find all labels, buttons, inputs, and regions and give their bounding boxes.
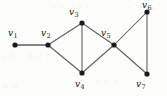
vertex-label-v3: v3 (69, 8, 78, 17)
graph-edge-v5-v7 (114, 45, 147, 74)
vertex-label-v4: v4 (75, 80, 84, 89)
vertex-label-subscript-v5: 5 (106, 32, 110, 40)
graph-edge-v5-v6 (114, 12, 147, 45)
graph-edge-v2-v4 (48, 45, 82, 73)
vertex-label-subscript-v1: 1 (13, 32, 17, 40)
vertex-label-subscript-v2: 2 (46, 32, 50, 40)
graph-vertex-v7 (144, 71, 149, 76)
vertex-label-v1: v1 (8, 29, 17, 38)
graph-vertex-v1 (12, 42, 17, 47)
vertex-label-v5: v5 (101, 29, 110, 38)
graph-vertex-v3 (79, 20, 84, 25)
vertex-label-v6: v6 (142, 1, 151, 10)
vertex-label-subscript-v3: 3 (74, 11, 78, 19)
graph-edge-v4-v5 (82, 45, 114, 73)
graph-edge-v2-v3 (48, 23, 82, 45)
graph-vertex-v2 (45, 42, 50, 47)
vertex-layer (12, 9, 149, 76)
vertex-label-v7: v7 (136, 80, 145, 89)
vertex-label-subscript-v4: 4 (80, 83, 84, 91)
graph-figure: v v v v v a b c d e f g x y z m n v1v2v3… (0, 0, 167, 96)
graph-vertex-v4 (79, 70, 84, 75)
vertex-label-v2: v2 (41, 29, 50, 38)
vertex-label-subscript-v6: 6 (147, 4, 151, 12)
vertex-label-subscript-v7: 7 (141, 83, 145, 91)
graph-vertex-v5 (111, 42, 116, 47)
